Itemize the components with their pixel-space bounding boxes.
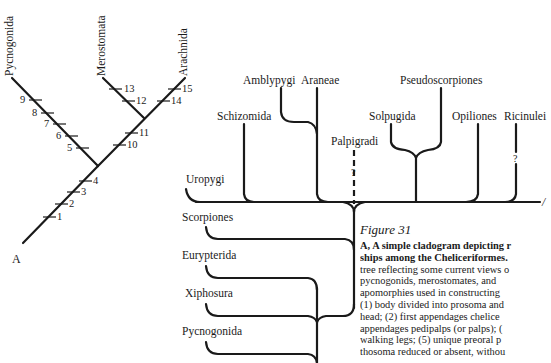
taxon-ricinulei: Ricinulei	[504, 111, 546, 123]
taxon-pycnogonida-a: Pycnogonida	[4, 16, 16, 76]
clado-b-pseudoscorpiones-branch	[416, 88, 441, 158]
clado-b-amblypygi-branch	[281, 88, 317, 134]
character-number-9: 9	[20, 95, 25, 106]
caption-line: thosoma reduced or absent, withou	[360, 346, 551, 358]
character-number-6: 6	[56, 131, 61, 142]
clado-b-opiliones-branch	[466, 124, 478, 202]
taxon-schizomida: Schizomida	[217, 111, 271, 123]
taxon-opiliones: Opiliones	[452, 111, 497, 123]
character-number-1: 1	[57, 212, 62, 223]
clado-b-uropygi-branch	[186, 189, 200, 202]
caption-line: head; (2) first appendages chelice	[360, 311, 551, 323]
character-number-5: 5	[67, 143, 72, 154]
taxon-amblypygi: Amblypygi	[243, 75, 295, 87]
clado-b-xiphosura-branch	[206, 304, 317, 322]
taxon-pycnogonida-b: Pycnogonida	[182, 326, 242, 338]
character-number-13: 13	[124, 84, 135, 95]
taxon-eurypterida: Eurypterida	[182, 250, 236, 262]
clado-b-scorpiones-branch	[206, 227, 354, 250]
taxon-scorpiones: Scorpiones	[182, 212, 233, 224]
clado-b-pycnogonida-branch	[206, 342, 317, 363]
taxon-uropygi: Uropygi	[186, 174, 224, 186]
taxon-merostomata: Merostomata	[96, 15, 108, 76]
clado-b-araneae-branch	[317, 88, 328, 202]
character-number-4: 4	[93, 176, 98, 187]
taxon-xiphosura: Xiphosura	[185, 288, 233, 300]
character-number-7: 7	[44, 119, 49, 130]
uncertain-mark-palpigradi: ?	[351, 167, 355, 178]
caption-line: tree reflecting some current views o	[360, 264, 551, 276]
panel-label-b-partial: /	[542, 197, 545, 209]
character-number-12: 12	[136, 96, 147, 107]
taxon-araneae: Araneae	[301, 75, 339, 87]
clado-a-chelicerata-branch	[98, 78, 185, 166]
caption-line: (1) body divided into prosoma and	[360, 299, 551, 311]
clado-b-arachnida-join	[317, 304, 354, 322]
caption-line: A, A simple cladogram depicting r	[360, 240, 551, 252]
taxon-solpugida: Solpugida	[369, 111, 416, 123]
character-number-8: 8	[32, 108, 37, 119]
caption-line: ships among the Cheliceriformes.	[360, 252, 551, 264]
uncertain-mark-ricinulei: ?	[513, 153, 517, 164]
caption-line: walking legs; (5) unique preoral p	[360, 334, 551, 346]
caption-line: appendages pedipalps (or palps); (	[360, 323, 551, 335]
caption-line: apomorphies used in constructing	[360, 287, 551, 299]
character-number-10: 10	[127, 140, 138, 151]
character-number-14: 14	[171, 96, 182, 107]
taxon-palpigradi: Palpigradi	[331, 136, 378, 148]
character-number-15: 15	[182, 84, 193, 95]
taxon-pseudoscorpiones: Pseudoscorpiones	[400, 75, 482, 87]
character-number-2: 2	[69, 199, 74, 210]
clado-a-pycnogonida-branch	[12, 78, 98, 166]
clado-b-ricinulei-branch-lower	[505, 164, 516, 202]
character-ticks	[29, 89, 181, 217]
clado-b-schizomida-branch	[244, 124, 254, 202]
character-number-3: 3	[81, 187, 86, 198]
taxon-arachnida: Arachnida	[178, 28, 190, 76]
character-number-11: 11	[139, 128, 149, 139]
caption-line: pycnogonids, merostomates, and	[360, 275, 551, 287]
figure-title: Figure 31	[360, 222, 411, 238]
clado-b-solpugida-branch	[391, 124, 416, 158]
panel-label-a: A	[12, 252, 21, 267]
figure-caption: A, A simple cladogram depicting r ships …	[360, 240, 551, 358]
